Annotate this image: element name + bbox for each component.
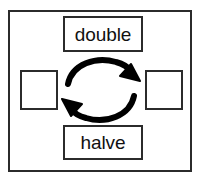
node-label-halve: halve — [81, 133, 126, 152]
node-box-double[interactable]: double — [63, 16, 143, 52]
diagram-canvas: double halve — [0, 0, 200, 187]
node-box-right-value[interactable] — [145, 70, 183, 110]
node-label-double: double — [75, 25, 131, 44]
node-box-left-value[interactable] — [20, 70, 58, 110]
node-box-halve[interactable]: halve — [63, 125, 143, 160]
